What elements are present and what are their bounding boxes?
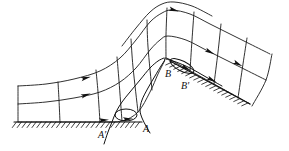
label-A: A [142,123,150,134]
diagram-canvas: A'ABB' [0,0,289,151]
label-B: B [165,68,171,79]
label-B-prime: B' [181,80,190,91]
flow-separation-diagram: A'ABB' [0,0,289,151]
label-A-prime: A' [97,129,107,140]
